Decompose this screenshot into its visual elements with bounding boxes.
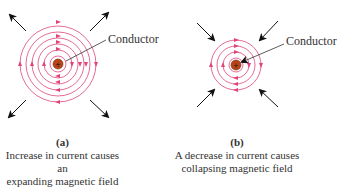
- caption-b: (b) A decrease in current causes collaps…: [172, 136, 302, 175]
- conductor-label-b: Conductor: [286, 34, 337, 49]
- caption-a-line1: Increase in current causes an: [0, 149, 125, 175]
- caption-b-line2: collapsing magnetic field: [172, 162, 302, 175]
- caption-b-line1: A decrease in current causes: [172, 149, 302, 162]
- panel-a-field: +: [9, 13, 108, 117]
- plus-icon: +: [233, 62, 239, 70]
- panel-tag-b: (b): [172, 136, 302, 149]
- caption-a-line2: expanding magnetic field: [0, 175, 125, 188]
- caption-a: (a) Increase in current causes an expand…: [0, 136, 125, 188]
- panel-b-field: +: [197, 21, 284, 107]
- panel-tag-a: (a): [0, 136, 125, 149]
- plus-icon: +: [55, 61, 61, 69]
- conductor-label-a: Conductor: [108, 32, 159, 47]
